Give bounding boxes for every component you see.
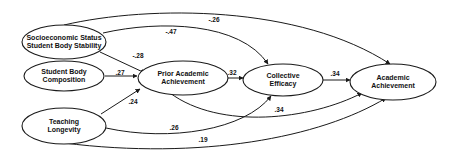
edge-ses-to-academic-achievement	[64, 13, 390, 64]
coef-prior-achievement-collective-efficacy: .32	[227, 69, 236, 76]
coef-longevity-prior-achievement: .24	[128, 98, 137, 105]
node-label: Achievement	[161, 78, 205, 85]
node-label: Composition	[43, 76, 86, 84]
path-diagram: -.26 -.47 -.28 .27 .24 .32 .34 .34 .26 .…	[0, 0, 454, 158]
node-label: Student Body	[41, 68, 87, 76]
coef-ses-prior-achievement: -.28	[132, 52, 144, 59]
node-label: Achievement	[371, 82, 415, 89]
coef-longevity-academic-achievement: .19	[198, 136, 207, 143]
coef-ses-academic-achievement: -.26	[208, 16, 220, 23]
edge-ses-to-collective-efficacy	[103, 26, 268, 64]
node-label: Teaching	[49, 118, 79, 126]
node-teaching-longevity: Teaching Longevity	[22, 108, 106, 144]
coef-ses-collective-efficacy: -.47	[165, 28, 177, 35]
node-academic-achievement: Academic Achievement	[350, 64, 436, 100]
node-label: Efficacy	[270, 80, 297, 88]
node-label: Socioeconomic Status	[26, 34, 101, 41]
node-student-body-composition: Student Body Composition	[24, 61, 104, 91]
coef-collective-efficacy-academic-achievement: .34	[330, 70, 339, 77]
edge-prior-achievement-to-academic-achievement	[170, 93, 362, 117]
coef-prior-achievement-academic-achievement: .34	[274, 106, 283, 113]
node-label: Collective	[266, 72, 299, 79]
node-ses-stability: Socioeconomic Status Student Body Stabil…	[22, 25, 106, 59]
node-label: Longevity	[47, 126, 80, 134]
node-collective-efficacy: Collective Efficacy	[243, 64, 323, 96]
node-label: Prior Academic	[157, 70, 208, 77]
node-label: Student Body Stability	[27, 42, 102, 50]
coef-longevity-collective-efficacy: .26	[169, 124, 178, 131]
node-prior-academic-achievement: Prior Academic Achievement	[138, 61, 228, 95]
node-label: Academic	[376, 74, 409, 81]
edge-longevity-to-academic-achievement	[64, 98, 386, 149]
coef-composition-prior-achievement: .27	[115, 69, 124, 76]
